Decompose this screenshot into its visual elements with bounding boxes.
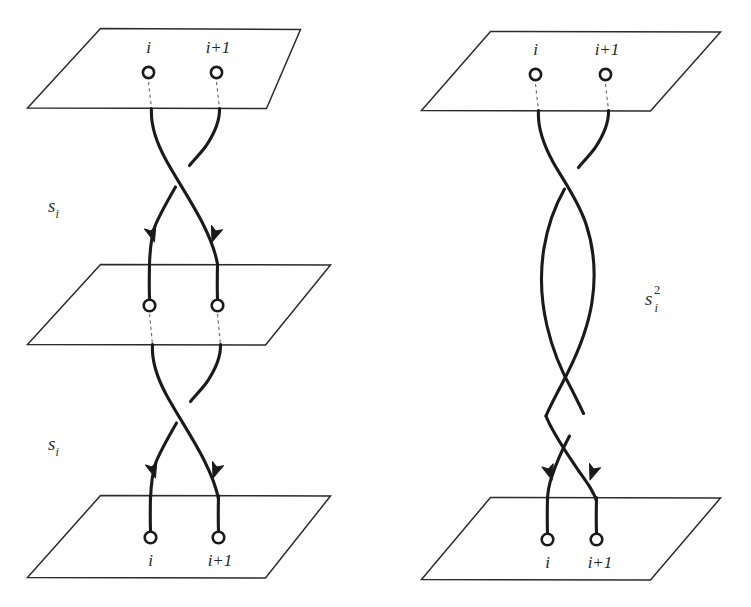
node-i-plus-1[interactable] xyxy=(591,534,603,546)
arrow-right xyxy=(585,464,601,482)
right-plane-top: i i+1 xyxy=(422,32,721,112)
plane-parallelogram xyxy=(28,496,331,579)
right-segment: si2 xyxy=(538,111,660,502)
strand-over-left-to-right xyxy=(151,109,217,265)
label-i-plus-1: i+1 xyxy=(588,553,613,572)
generator-subscript: i xyxy=(55,445,59,459)
left-plane-bottom: i i+1 xyxy=(28,496,331,579)
generator-label-upper: si xyxy=(48,195,59,221)
label-i-plus-1: i+1 xyxy=(206,38,231,57)
left-segment-upper: si xyxy=(48,109,223,265)
label-i: i xyxy=(146,38,151,57)
plane-parallelogram xyxy=(422,32,721,112)
node-i[interactable] xyxy=(143,67,154,78)
strand-under-lower-part xyxy=(150,187,176,264)
node-i-plus-1[interactable] xyxy=(212,300,224,312)
node-i[interactable] xyxy=(530,69,541,80)
drop-line-i xyxy=(149,82,152,109)
braid-figure: i i+1 si xyxy=(0,0,751,607)
generator-base: s xyxy=(645,288,652,309)
node-i[interactable] xyxy=(542,534,554,546)
label-i: i xyxy=(545,553,550,572)
left-plane-top: i i+1 xyxy=(28,29,301,109)
generator-base: s xyxy=(48,433,55,454)
node-i-plus-1[interactable] xyxy=(211,67,222,78)
left-plane-middle xyxy=(28,265,331,346)
strand-under-upper-part xyxy=(190,109,220,166)
strand-over-left-to-right xyxy=(152,345,218,500)
drop-line-i-plus-1 xyxy=(218,314,221,345)
label-i: i xyxy=(148,551,153,570)
right-panel: i i+1 si2 xyxy=(422,32,721,581)
left-segment-lower: si xyxy=(48,345,224,500)
strand-A-lower xyxy=(546,416,597,501)
left-panel: i i+1 si xyxy=(28,29,331,579)
right-plane-bottom: i i+1 xyxy=(422,498,721,581)
generator-label-squared: si2 xyxy=(645,283,660,315)
plane-parallelogram xyxy=(28,29,301,109)
strand-under-upper-part xyxy=(191,345,221,402)
label-i: i xyxy=(533,40,538,59)
drop-line-i xyxy=(150,314,153,345)
strand-under-lower-part xyxy=(151,423,177,499)
node-i-plus-1[interactable] xyxy=(600,69,611,80)
label-i-plus-1: i+1 xyxy=(595,40,620,59)
plane-parallelogram xyxy=(28,265,331,346)
drop-line-i-plus-1 xyxy=(606,84,609,111)
label-i-plus-1: i+1 xyxy=(208,551,233,570)
strand-B-seg1 xyxy=(579,111,609,168)
node-i-plus-1[interactable] xyxy=(213,532,225,544)
strand-A-upper xyxy=(538,111,594,417)
plane-parallelogram xyxy=(422,498,721,581)
drop-line-i-plus-1 xyxy=(217,82,220,109)
generator-subscript: i xyxy=(55,207,59,221)
drop-line-i xyxy=(536,84,539,111)
node-i[interactable] xyxy=(145,532,157,544)
generator-label-lower: si xyxy=(48,433,59,459)
figure-canvas: i i+1 si xyxy=(0,0,751,607)
generator-superscript: 2 xyxy=(654,283,660,297)
generator-base: s xyxy=(48,195,55,216)
generator-subscript: i xyxy=(654,301,658,315)
node-i[interactable] xyxy=(144,300,156,312)
